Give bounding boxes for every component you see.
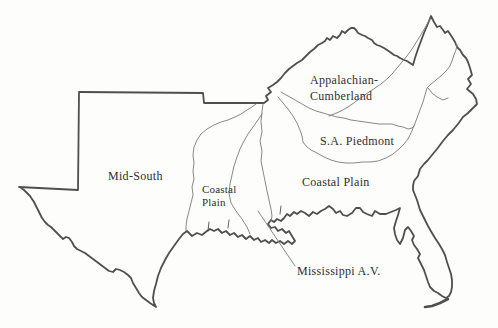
coast-inlet-tick-3 — [280, 206, 281, 214]
label-coastal-plain-west-line1: Coastal — [202, 183, 236, 195]
label-mississippi-av: Mississippi A.V. — [297, 264, 381, 278]
label-appalachian-line1: Appalachian- — [310, 73, 378, 87]
label-coastal-plain-west-line2: Plain — [202, 196, 226, 208]
west-coastal-plain-west-boundary — [186, 104, 256, 231]
region-map-figure: Mid-South Coastal Plain Appalachian- Cum… — [0, 0, 498, 328]
label-sa-piedmont: S.A. Piedmont — [320, 134, 395, 148]
map-canvas: Mid-South Coastal Plain Appalachian- Cum… — [0, 0, 498, 328]
mississippi-av-east-boundary — [260, 104, 272, 221]
label-appalachian-line2: Cumberland — [310, 89, 372, 103]
outer-boundary-path — [19, 16, 477, 307]
label-coastal-plain-east: Coastal Plain — [302, 175, 370, 189]
coast-inlet-tick-2 — [228, 220, 229, 228]
florida-keys-path — [425, 299, 448, 307]
fall-line-spur — [428, 88, 448, 100]
mississippi-av-west-boundary — [229, 114, 262, 234]
label-mid-south: Mid-South — [108, 169, 163, 183]
